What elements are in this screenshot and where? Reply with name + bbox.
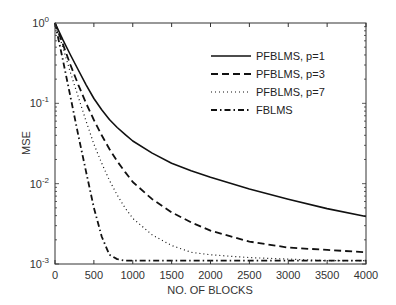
x-tick-label: 2500 bbox=[237, 269, 261, 281]
x-tick-labels: 05001000150020002500300035004000 bbox=[52, 269, 378, 281]
mse-chart: 05001000150020002500300035004000 10-310-… bbox=[0, 0, 396, 305]
x-tick-label: 1500 bbox=[159, 269, 183, 281]
y-tick-label: 100 bbox=[32, 15, 49, 29]
x-tick-label: 2000 bbox=[198, 269, 222, 281]
legend-label-0: PFBLMS, p=1 bbox=[256, 50, 325, 62]
legend: PFBLMS, p=1PFBLMS, p=3PFBLMS, p=7FBLMS bbox=[211, 50, 325, 116]
x-tick-label: 3500 bbox=[315, 269, 339, 281]
y-axis-label: MSE bbox=[20, 131, 32, 155]
legend-label-3: FBLMS bbox=[256, 104, 293, 116]
x-tick-label: 3000 bbox=[276, 269, 300, 281]
x-tick-label: 1000 bbox=[121, 269, 145, 281]
y-tick-label: 10-3 bbox=[30, 256, 50, 270]
x-tick-label: 4000 bbox=[354, 269, 378, 281]
x-tick-label: 0 bbox=[52, 269, 58, 281]
legend-label-2: PFBLMS, p=7 bbox=[256, 86, 325, 98]
y-tick-labels: 10-310-210-1100 bbox=[30, 15, 50, 270]
x-axis-label: NO. OF BLOCKS bbox=[167, 284, 253, 296]
y-tick-label: 10-2 bbox=[30, 176, 50, 190]
legend-label-1: PFBLMS, p=3 bbox=[256, 68, 325, 80]
y-tick-label: 10-1 bbox=[30, 95, 50, 109]
x-tick-label: 500 bbox=[85, 269, 103, 281]
